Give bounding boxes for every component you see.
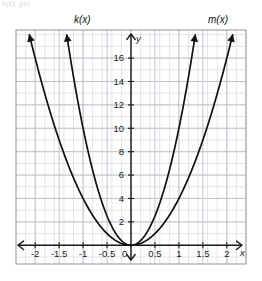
y-tick-label: 2 (119, 216, 124, 227)
origin-label: 0 (122, 248, 127, 259)
y-tick-label: 14 (113, 76, 124, 87)
x-tick-label: 2 (224, 248, 229, 259)
x-tick-label: 1.5 (196, 248, 209, 259)
y-tick-label: 4 (119, 193, 124, 204)
curve-label-k: k(x) (74, 14, 91, 25)
curve-label-m: m(x) (208, 14, 228, 25)
corner-note-label: h(x), j(x) (2, 0, 30, 7)
y-tick-label: 10 (113, 123, 124, 134)
y-tick-label: 6 (119, 169, 124, 180)
x-tick-label: -2 (31, 248, 39, 259)
x-tick-label: 1 (176, 248, 181, 259)
x-tick-label: -1 (79, 248, 87, 259)
x-tick-label: -1.5 (51, 248, 67, 259)
coordinate-plane: -2-1.5-1-0.50.511.52246810121416 x y 0 (0, 0, 262, 281)
graph-figure: h(x), j(x) k(x) m(x) -2-1.5-1-0.50.511.5… (0, 0, 262, 281)
y-tick-label: 16 (113, 52, 124, 63)
x-tick-label: 0.5 (148, 248, 161, 259)
y-tick-label: 12 (113, 99, 124, 110)
x-tick-label: -0.5 (99, 248, 115, 259)
y-tick-label: 8 (119, 146, 124, 157)
